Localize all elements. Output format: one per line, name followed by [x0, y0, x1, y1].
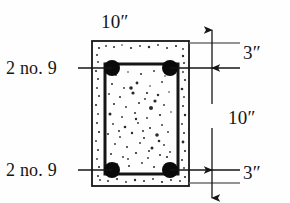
label-top-cover-dimension: 3″: [243, 43, 261, 62]
label-effective-depth-dimension: 10″: [228, 108, 256, 127]
label-bottom-cover-dimension: 3″: [243, 163, 261, 182]
label-top-reinforcement: 2 no. 9: [6, 59, 57, 77]
figure-canvas: 10″ 2 no. 9 2 no. 9 3″ 10″ 3″: [0, 0, 290, 203]
label-bottom-reinforcement: 2 no. 9: [6, 161, 57, 179]
label-section-width: 10″: [101, 12, 129, 31]
